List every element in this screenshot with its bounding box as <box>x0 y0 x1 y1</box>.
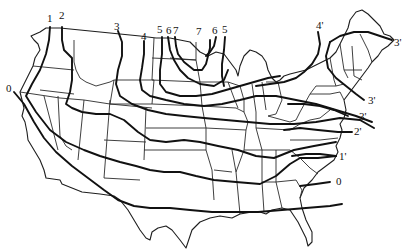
label-0-east: 0 <box>336 175 342 187</box>
label-3-prime-ne: 3' <box>394 36 402 48</box>
label-0-west: 0 <box>6 82 12 94</box>
isoline-0-east <box>300 182 330 186</box>
isoline-6-west <box>168 37 228 86</box>
label-1-prime: 1' <box>339 150 347 162</box>
label-4: 4 <box>141 30 147 42</box>
label-7-west: 7 <box>173 24 179 36</box>
label-3: 3 <box>114 20 120 32</box>
isoline-7-west <box>175 37 210 70</box>
label-6-east: 6 <box>212 24 218 36</box>
label-7-east: 7 <box>196 25 202 37</box>
label-3-prime-mid: 3' <box>368 94 376 106</box>
map-canvas: 0 1 2 3 4 5 6 7 7 6 5 4' 3' 3' 3' 2' 1' … <box>0 0 407 250</box>
label-5-east: 5 <box>222 23 228 35</box>
label-4-prime: 4' <box>316 19 324 31</box>
label-3-prime-south: 3' <box>359 110 367 122</box>
isoline-1-prime <box>292 154 336 156</box>
label-2: 2 <box>59 9 65 21</box>
isoline-2 <box>62 27 336 158</box>
us-isoline-map: 0 1 2 3 4 5 6 7 7 6 5 4' 3' 3' 3' 2' 1' … <box>0 0 407 250</box>
label-5-west: 5 <box>157 23 163 35</box>
label-2-prime: 2' <box>354 125 362 137</box>
label-1: 1 <box>47 12 53 24</box>
label-6-west: 6 <box>166 24 172 36</box>
